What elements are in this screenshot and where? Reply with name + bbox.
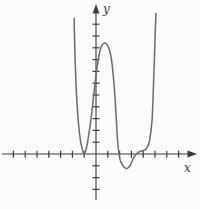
x-axis-arrow-icon <box>188 151 198 158</box>
function-plot-figure: x y <box>0 0 200 209</box>
polynomial-curve <box>74 14 156 169</box>
y-axis-arrow-icon <box>93 4 100 14</box>
x-axis-label: x <box>184 161 191 175</box>
function-plot: x y <box>0 0 200 209</box>
y-axis-label: y <box>102 2 110 16</box>
